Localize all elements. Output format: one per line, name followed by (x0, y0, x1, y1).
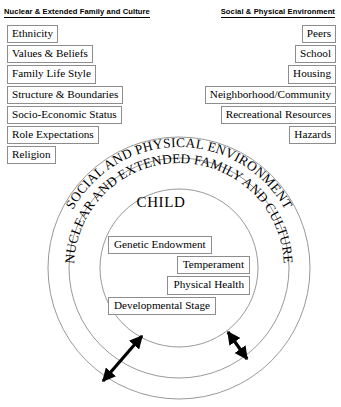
child-box-physical-health: Physical Health (167, 276, 250, 294)
child-attribute-stack: Genetic Endowment Temperament Physical H… (108, 236, 250, 317)
child-box-temperament: Temperament (177, 256, 250, 274)
inner-circle-label: CHILD (137, 194, 186, 210)
child-box-developmental-stage: Developmental Stage (108, 297, 216, 315)
concentric-circles-diagram: SOCIAL AND PHYSICAL ENVIRONMENT NUCLEAR … (0, 0, 341, 407)
bidirectional-arrow-left (103, 336, 142, 381)
bidirectional-arrow-right (228, 332, 247, 359)
child-box-genetic-endowment: Genetic Endowment (108, 236, 212, 254)
